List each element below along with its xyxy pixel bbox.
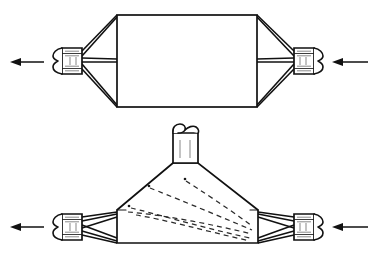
bottom-view-inlet-arrow — [332, 223, 368, 231]
flow-origin-dot-3 — [184, 178, 187, 181]
top-view-right-fitting — [294, 48, 323, 74]
bottom-view-group — [10, 124, 368, 243]
bottom-view-left-taper-lines — [82, 212, 117, 243]
top-view-right-taper-lines — [257, 15, 294, 107]
bottom-view-outlet-arrow — [10, 223, 44, 231]
top-view-left-fitting — [53, 48, 82, 74]
top-view-outlet-arrow — [10, 58, 44, 66]
top-view-left-taper-lines — [82, 15, 117, 107]
flow-origin-dot-2 — [148, 185, 151, 188]
bottom-view-right-taper-lines — [258, 212, 294, 243]
bottom-view-top-stack — [173, 124, 199, 163]
top-view-inlet-arrow — [332, 58, 368, 66]
diagram-canvas — [0, 0, 376, 264]
bottom-view-left-fitting — [53, 214, 82, 240]
top-view-group — [10, 15, 368, 107]
bottom-view-right-fitting — [294, 214, 323, 240]
flow-origin-dot-1 — [128, 205, 131, 208]
technical-diagram-figure — [0, 0, 376, 264]
top-view-plenum-body — [117, 15, 257, 107]
